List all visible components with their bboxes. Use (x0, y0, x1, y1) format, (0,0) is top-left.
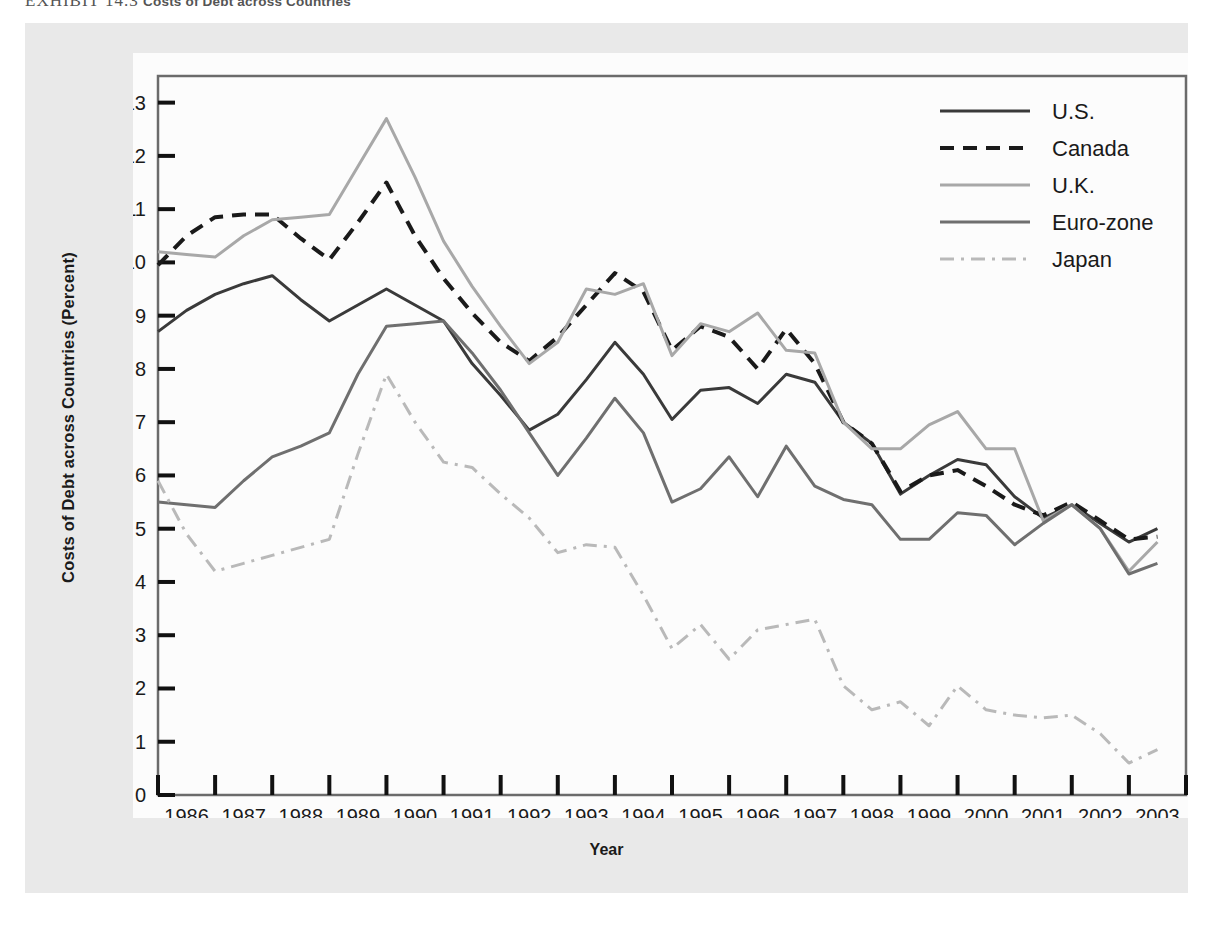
y-axis-tick-label: 9 (135, 305, 146, 327)
y-axis-tick-label: 7 (135, 411, 146, 433)
x-axis-tick-label: 1991 (450, 805, 495, 818)
x-axis-tick-label: 2003 (1135, 805, 1180, 818)
x-axis-tick-label: 2001 (1021, 805, 1065, 818)
legend-label: Euro-zone (1052, 210, 1154, 235)
x-axis-tick-label: 1999 (907, 805, 952, 818)
y-axis-tick-label: 0 (135, 784, 146, 806)
line-chart: 0123456789101112131986198719881989199019… (133, 53, 1188, 818)
legend-label: Japan (1052, 247, 1112, 272)
x-axis-tick-label: 1992 (507, 805, 552, 818)
y-axis: 012345678910111213 (133, 92, 175, 806)
x-axis-tick-label: 1994 (621, 805, 666, 818)
y-axis-title: Costs of Debt across Countries (Percent) (59, 68, 78, 768)
y-axis-tick-label: 1 (135, 731, 146, 753)
y-axis-tick-label: 5 (135, 518, 146, 540)
exhibit-caption: Costs of Debt across Countries (143, 0, 351, 9)
x-axis-tick-label: 1998 (850, 805, 895, 818)
series-line-japan (158, 374, 1157, 763)
series-line-u-k (158, 119, 1157, 572)
y-axis-tick-label: 8 (135, 358, 146, 380)
figure-panel: 0123456789101112131986198719881989199019… (25, 23, 1188, 893)
series-group (158, 119, 1157, 763)
exhibit-number: EXHIBIT 14.3 (25, 0, 139, 10)
x-axis-tick-label: 1986 (164, 805, 209, 818)
x-axis-title: Year (25, 841, 1188, 859)
y-axis-tick-label: 13 (133, 92, 146, 114)
plot-canvas: 0123456789101112131986198719881989199019… (133, 53, 1188, 818)
x-axis-tick-label: 1996 (735, 805, 780, 818)
legend: U.S.CanadaU.K.Euro-zoneJapan (940, 99, 1154, 272)
legend-label: Canada (1052, 136, 1130, 161)
x-axis-tick-label: 1990 (393, 805, 438, 818)
legend-label: U.S. (1052, 99, 1095, 124)
exhibit-title: EXHIBIT 14.3 Costs of Debt across Countr… (25, 0, 351, 11)
x-axis: 1986198719881989199019911992199319941995… (158, 775, 1186, 818)
y-axis-tick-label: 3 (135, 624, 146, 646)
y-axis-tick-label: 12 (133, 145, 146, 167)
x-axis-tick-label: 1995 (678, 805, 723, 818)
x-axis-tick-label: 2002 (1078, 805, 1123, 818)
x-axis-tick-label: 1989 (336, 805, 381, 818)
y-axis-tick-label: 11 (133, 198, 146, 220)
legend-label: U.K. (1052, 173, 1095, 198)
x-axis-tick-label: 1988 (279, 805, 324, 818)
x-axis-tick-label: 1987 (221, 805, 266, 818)
y-axis-tick-label: 10 (133, 251, 146, 273)
plot-frame (158, 76, 1186, 795)
y-axis-tick-label: 2 (135, 677, 146, 699)
x-axis-tick-label: 2000 (964, 805, 1009, 818)
x-axis-tick-label: 1993 (564, 805, 609, 818)
x-axis-tick-label: 1997 (793, 805, 838, 818)
series-line-canada (158, 183, 1157, 540)
y-axis-tick-label: 6 (135, 464, 146, 486)
y-axis-tick-label: 4 (135, 571, 146, 593)
